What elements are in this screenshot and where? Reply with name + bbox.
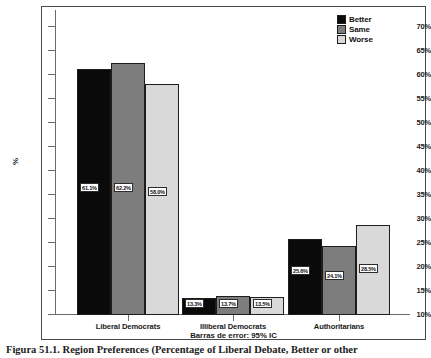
legend: Better Same Worse (335, 13, 376, 47)
y-tick-label-20: 20% (385, 262, 431, 271)
bar-value-worse-liberal-democrats: 58.0% (148, 187, 167, 196)
bar-better-authoritarians (288, 239, 322, 315)
figure-container: % 70% 65% 60% 55% 50% 45% 40% 35% 30% 25… (0, 0, 431, 358)
x-tick-illiberal-democrats (233, 315, 234, 321)
error-bar-note: Barras de error: 95% IC (41, 331, 426, 340)
legend-label-better: Better (349, 15, 372, 24)
legend-swatch-same-icon (337, 25, 346, 34)
bar-value-better-liberal-democrats: 61.1% (80, 183, 99, 192)
legend-label-same: Same (349, 25, 370, 34)
bar-value-same-illiberal-democrats: 13.7% (219, 299, 238, 308)
bar-value-better-illiberal-democrats: 13.3% (185, 299, 204, 308)
y-axis-title: % (11, 158, 20, 165)
legend-label-worse: Worse (349, 35, 373, 44)
legend-item-same: Same (337, 25, 373, 34)
y-tick-55 (48, 98, 55, 99)
x-tick-liberal-democrats (128, 315, 129, 321)
x-tick-authoritarians (339, 315, 340, 321)
y-tick-25 (48, 242, 55, 243)
y-tick-40 (48, 170, 55, 171)
y-tick-label-50: 50% (385, 118, 431, 127)
x-axis-label-illiberal-democrats: Illiberal Democrats (173, 322, 293, 331)
bar-same-authoritarians (322, 246, 356, 315)
y-tick-60 (48, 74, 55, 75)
y-tick-50 (48, 122, 55, 123)
y-tick-label-35: 35% (385, 190, 431, 199)
y-tick-label-25: 25% (385, 238, 431, 247)
bar-value-same-authoritarians: 24.1% (325, 271, 344, 280)
y-tick-10 (48, 314, 55, 315)
bar-worse-liberal-democrats (145, 84, 179, 315)
figure-caption: Figura 51.1. Region Preferences (Percent… (6, 344, 431, 355)
x-axis-label-authoritarians: Authoritarians (284, 322, 394, 331)
y-tick-30 (48, 218, 55, 219)
y-tick-65 (48, 50, 55, 51)
legend-item-worse: Worse (337, 35, 373, 44)
y-tick-label-55: 55% (385, 94, 431, 103)
y-tick-70 (48, 26, 55, 27)
bar-value-same-liberal-democrats: 62.2% (114, 183, 133, 192)
y-tick-label-65: 65% (385, 46, 431, 55)
y-tick-20 (48, 266, 55, 267)
y-axis-line (55, 10, 56, 314)
y-tick-label-60: 60% (385, 70, 431, 79)
bar-value-better-authoritarians: 25.6% (291, 266, 310, 275)
y-tick-label-45: 45% (385, 142, 431, 151)
y-tick-45 (48, 146, 55, 147)
y-tick-label-30: 30% (385, 214, 431, 223)
y-tick-15 (48, 290, 55, 291)
x-axis-label-liberal-democrats: Liberal Democrats (68, 322, 188, 331)
y-tick-label-40: 40% (385, 166, 431, 175)
legend-swatch-better-icon (337, 15, 346, 24)
bar-value-worse-authoritarians: 28.5% (359, 264, 378, 273)
y-tick-35 (48, 194, 55, 195)
y-tick-label-10: 10% (385, 310, 431, 319)
legend-swatch-worse-icon (337, 35, 346, 44)
y-tick-label-15: 15% (385, 286, 431, 295)
y-tick-label-70: 70% (385, 22, 431, 31)
legend-item-better: Better (337, 15, 373, 24)
bar-value-worse-illiberal-democrats: 13.5% (253, 299, 272, 308)
